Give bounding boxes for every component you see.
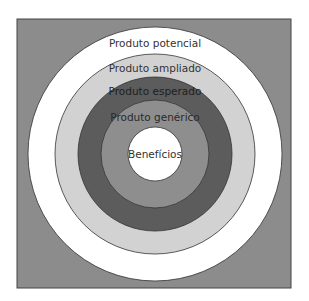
ring-label: Produto ampliado xyxy=(109,62,202,74)
ring-label: Produto potencial xyxy=(109,37,201,49)
ring-label: Produto genérico xyxy=(110,111,200,123)
ring-label: Benefícios xyxy=(128,148,182,160)
ring-label: Produto esperado xyxy=(109,85,202,97)
product-levels-diagram: Produto potencialProduto ampliadoProduto… xyxy=(0,0,309,301)
